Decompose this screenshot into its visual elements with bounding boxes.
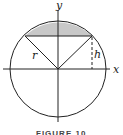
y-axis-label: y — [55, 0, 63, 12]
radius-right — [58, 36, 92, 69]
height-label: h — [94, 48, 101, 61]
figure-caption: FIGURE 10 — [36, 129, 86, 135]
x-axis-label: x — [113, 63, 120, 76]
radius-left — [25, 36, 58, 69]
radius-label: r — [32, 49, 38, 62]
circle-segment-diagram: y x r h FIGURE 10 — [0, 0, 123, 135]
